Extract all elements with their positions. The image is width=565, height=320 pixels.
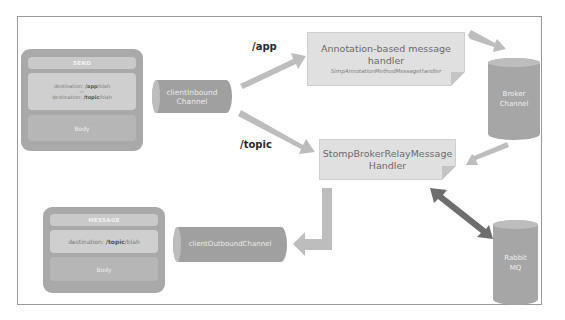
send-frame-body: Body [28, 115, 136, 141]
dest-app-path: /app [85, 83, 97, 89]
dest-prefix: destination: [52, 94, 83, 100]
route-label-app: /app [252, 41, 277, 52]
send-title-text: SEND [73, 60, 91, 66]
stomp-broker-relay-handler: StompBrokerRelayMessage Handler [319, 139, 456, 180]
route-label-topic: /topic [240, 139, 272, 150]
relay-handler-title: StompBrokerRelayMessage Handler [323, 148, 453, 172]
send-frame-destinations: destination: /app/blah or destination: /… [28, 73, 136, 110]
client-outbound-channel: clientOutboundChannel [173, 227, 287, 262]
dest-topic-suffix: /blah [99, 94, 111, 100]
annotation-message-handler: Annotation-based message handler SimpAnn… [307, 32, 465, 86]
rabbit-mq-label: Rabbit MQ [502, 253, 530, 273]
annotation-handler-class: SimpAnnotationMethodMessageHandler [331, 67, 441, 75]
broker-channel-label: Broker Channel [496, 89, 532, 109]
send-frame-title: SEND [28, 57, 136, 69]
message-frame: MESSAGE destination: /topic/blah Body [43, 207, 165, 293]
send-frame: SEND destination: /app/blah or destinati… [21, 49, 143, 151]
destination-topic: destination: /topic/blah [52, 94, 112, 100]
destination-topic: destination: /topic/blah [68, 238, 140, 245]
message-frame-body: Body [50, 257, 158, 281]
client-inbound-channel: clientInbound Channel [152, 80, 232, 113]
message-frame-title: MESSAGE [50, 214, 158, 226]
message-title-text: MESSAGE [88, 217, 120, 223]
dest-prefix: destination: [68, 238, 106, 245]
message-body-text: Body [96, 266, 111, 273]
dest-topic-path: /topic [106, 238, 125, 245]
broker-channel: Broker Channel [488, 58, 540, 140]
dest-topic-suffix: /blah [125, 238, 140, 245]
dest-topic-path: /topic [83, 94, 99, 100]
message-frame-destination: destination: /topic/blah [50, 230, 158, 253]
annotation-handler-title: Annotation-based message handler [321, 43, 451, 67]
dest-app-suffix: /blah [98, 83, 110, 89]
rabbit-mq: Rabbit MQ [493, 220, 538, 305]
client-inbound-label: clientInbound Channel [166, 88, 218, 106]
client-outbound-label: clientOutboundChannel [189, 240, 272, 249]
send-body-text: Body [74, 125, 89, 132]
